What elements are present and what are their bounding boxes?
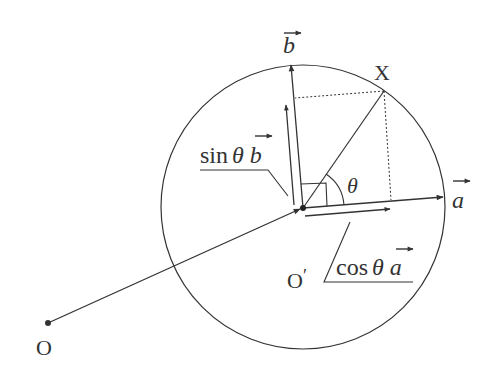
label-center: O′ [287,266,307,293]
label-vector-a: a [452,187,464,213]
right-angle-marker [301,183,327,206]
label-sin-theta-b: sinθb [200,142,262,168]
label-cos-theta-a: cosθa [336,254,402,280]
vector-sin-theta-b [286,105,294,205]
label-origin: O [36,335,52,360]
dotted-projection-to-a [384,91,391,200]
label-angle-theta: θ [347,173,358,198]
label-point-x: X [374,60,390,85]
vector-o-to-oprime [48,209,300,323]
angle-arc [326,174,344,205]
vector-a [303,197,443,208]
dotted-projection-to-b [295,91,384,98]
origin-point [45,320,51,326]
vector-cos-theta-a [305,209,390,216]
diagram-canvas: O O′ X b a θ sinθb cosθa [0,0,494,368]
center-point [300,205,306,211]
segment-oprime-to-x [303,91,384,208]
sin-label-leader [200,170,288,196]
label-vector-b: b [283,32,295,58]
